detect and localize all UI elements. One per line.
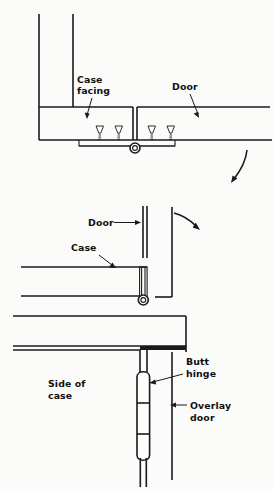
elev-butt-hinge-barrel xyxy=(137,372,150,461)
bottom-hinge-leaf-strip xyxy=(140,267,148,297)
elev-label-side-of-case-line1: Side of xyxy=(48,378,86,389)
elev-label-butt-hinge-line1: Butt xyxy=(186,356,210,367)
bottom-hinge-pin-inner xyxy=(141,298,146,303)
bottom-label-door: Door xyxy=(88,217,114,228)
elev-label-butt-hinge-line2: hinge xyxy=(186,368,216,379)
diagram-canvas: Case facing Door xyxy=(0,0,275,489)
elev-label-side-of-case-line2: case xyxy=(48,390,72,401)
elev-label-overlay-door-line2: door xyxy=(190,412,215,423)
hinge-diagram-figure: Case facing Door xyxy=(0,0,275,489)
bottom-label-case: Case xyxy=(71,242,97,253)
top-label-door: Door xyxy=(172,81,198,92)
top-label-case-facing-line1: Case xyxy=(77,74,103,85)
top-label-case-facing-line2: facing xyxy=(77,85,110,96)
top-hinge-pin-inner xyxy=(133,146,138,151)
elev-label-overlay-door-line1: Overlay xyxy=(190,400,231,411)
elev-mortise-shadow-band xyxy=(140,346,186,350)
